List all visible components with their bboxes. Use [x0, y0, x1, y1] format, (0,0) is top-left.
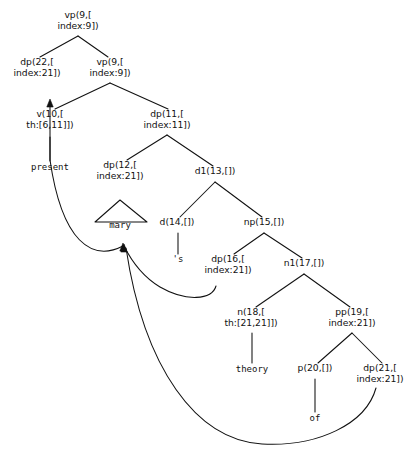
- node-label-line1: p(20,[]): [298, 362, 333, 373]
- tree-node-label: dp(12,[index:21]): [96, 159, 143, 181]
- node-label-line1: vp(9,[: [64, 9, 91, 20]
- movement-arc: [126, 248, 376, 444]
- tree-edge: [318, 333, 352, 363]
- node-label-line2: th:[6,11]]): [26, 119, 73, 130]
- phrase-triangle: [95, 200, 147, 222]
- parse-tree-diagram: vp(9,[index:9])dp(22,[index:21])vp(9,[in…: [0, 0, 417, 454]
- tree-edges-group: [40, 36, 382, 412]
- node-label-line1: np(15,[]): [244, 216, 285, 227]
- tree-node-label: d(14,[]): [160, 216, 195, 227]
- node-label-line1: dp(16,[: [211, 253, 244, 264]
- triangle-group: [95, 200, 147, 222]
- tree-leaf-word: of: [310, 413, 321, 423]
- tree-edge: [234, 233, 264, 254]
- tree-edge: [167, 135, 213, 166]
- node-label-line1: dp(21,[: [363, 362, 396, 373]
- node-label-line2: index:9]): [89, 67, 130, 78]
- tree-edge: [55, 83, 110, 109]
- tree-edge: [352, 333, 382, 363]
- tree-node-label: n(18,[th:[21,21]]): [224, 306, 277, 328]
- node-label-line1: dp(11,[: [150, 108, 183, 119]
- tree-edge: [256, 274, 304, 307]
- movement-arc: [124, 246, 216, 297]
- tree-leaf-word: mary: [109, 220, 131, 230]
- node-label-line1: dp(12,[: [103, 159, 136, 170]
- tree-edge: [127, 135, 167, 160]
- tree-node-label: vp(9,[index:9]): [57, 9, 98, 31]
- node-label-line2: index:21]): [96, 170, 143, 181]
- tree-node-label: pp(19,[index:21]): [328, 306, 375, 328]
- tree-node-label: dp(22,[index:21]): [13, 56, 60, 78]
- tree-canvas: vp(9,[index:9])dp(22,[index:21])vp(9,[in…: [0, 0, 417, 454]
- node-label-line2: index:21]): [13, 67, 60, 78]
- node-label-line1: pp(19,[: [335, 306, 368, 317]
- tree-node-label: d1(13,[]): [195, 165, 236, 176]
- tree-node-label: vp(9,[index:9]): [89, 56, 130, 78]
- tree-edge: [215, 182, 262, 217]
- tree-edge: [110, 83, 168, 109]
- node-label-line1: v(10,[: [36, 108, 63, 119]
- node-label-line1: n(18,[: [237, 306, 265, 317]
- tree-nodes-group: vp(9,[index:9])dp(22,[index:21])vp(9,[in…: [13, 9, 403, 384]
- tree-node-label: v(10,[th:[6,11]]): [26, 108, 73, 130]
- node-label-line1: n1(17,[]): [284, 257, 325, 268]
- tree-edge: [40, 36, 78, 57]
- tree-edge: [180, 182, 215, 217]
- tree-node-label: dp(16,[index:21]): [204, 253, 251, 275]
- node-label-line2: th:[21,21]]): [224, 317, 277, 328]
- arrow-head-icon: [47, 99, 53, 107]
- tree-node-label: dp(21,[index:21]): [356, 362, 403, 384]
- node-label-line2: index:21]): [328, 317, 375, 328]
- node-label-line2: index:21]): [204, 264, 251, 275]
- tree-edge: [304, 274, 350, 307]
- tree-node-label: dp(11,[index:11]): [143, 108, 190, 130]
- node-label-line1: vp(9,[: [96, 56, 123, 67]
- tree-edge: [264, 233, 302, 258]
- tree-leaf-word: theory: [236, 364, 269, 374]
- tree-node-label: p(20,[]): [298, 362, 333, 373]
- node-label-line2: index:9]): [57, 20, 98, 31]
- node-label-line1: d(14,[]): [160, 216, 195, 227]
- tree-edge: [78, 36, 108, 57]
- node-label-line1: d1(13,[]): [195, 165, 236, 176]
- node-label-line2: index:11]): [143, 119, 190, 130]
- tree-leaf-word: present: [31, 162, 69, 172]
- tree-node-label: np(15,[]): [244, 216, 285, 227]
- tree-leaf-word: 's: [173, 254, 184, 264]
- node-label-line2: index:21]): [356, 373, 403, 384]
- tree-node-label: n1(17,[]): [284, 257, 325, 268]
- node-label-line1: dp(22,[: [20, 56, 53, 67]
